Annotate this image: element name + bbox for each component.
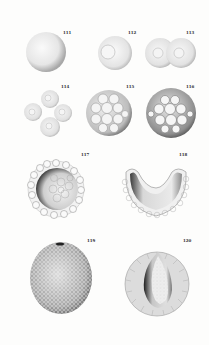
figure-label: 111: [63, 31, 71, 35]
figure-113: [143, 33, 199, 73]
figure-label: 114: [61, 85, 69, 89]
figure-119: [28, 240, 94, 316]
figure-117: [26, 158, 86, 220]
figure-label: 116: [186, 85, 194, 89]
figure-115: [84, 88, 134, 138]
figure-label: 119: [87, 239, 95, 243]
figure-label: 113: [186, 31, 194, 35]
figure-label: 112: [128, 31, 136, 35]
figure-111: [24, 30, 70, 76]
figure-116: [143, 86, 199, 140]
figure-112: [94, 33, 134, 73]
illustration-plate: 111 112: [0, 0, 209, 345]
figure-label: 120: [183, 239, 191, 243]
figure-114: [20, 88, 76, 140]
figure-120: [122, 246, 192, 318]
figure-118: [120, 158, 192, 220]
figure-label: 115: [126, 85, 134, 89]
figure-label: 117: [81, 153, 89, 157]
figure-label: 118: [179, 153, 187, 157]
